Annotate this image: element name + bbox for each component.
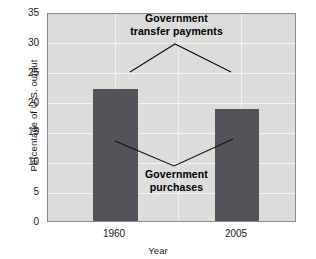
x-axis-title: Year	[0, 245, 316, 256]
annotation-transfer-payments: Government transfer payments	[104, 12, 249, 37]
gridline-25	[48, 73, 295, 74]
bar-chart-figure: Percentage of U.S. output 35 30 25 20 15…	[0, 0, 316, 259]
annotation-transfer-line2: transfer payments	[104, 25, 249, 38]
annotation-government-purchases: Government purchases	[104, 168, 249, 193]
bar-2005	[215, 109, 259, 221]
x-tick-label-2005: 2005	[225, 228, 247, 239]
y-tick-label: 20	[28, 98, 39, 108]
annotation-purchases-line1: Government	[104, 168, 249, 181]
gridline-30	[48, 43, 295, 44]
y-axis-tick-labels: 35 30 25 20 15 10 5 0	[0, 0, 44, 259]
x-tick-label-1960: 1960	[103, 228, 125, 239]
y-tick-label: 35	[28, 8, 39, 18]
y-tick-label: 5	[33, 187, 39, 197]
bar-1960	[93, 89, 138, 221]
x-axis-tick-labels: 1960 2005	[0, 228, 316, 242]
gridline-20	[48, 103, 295, 104]
annotation-purchases-line2: purchases	[104, 181, 249, 194]
y-tick-label: 25	[28, 68, 39, 78]
annotation-transfer-line1: Government	[104, 12, 249, 25]
y-tick-label: 0	[33, 217, 39, 227]
y-tick-label: 10	[28, 157, 39, 167]
y-tick-label: 30	[28, 38, 39, 48]
y-tick-label: 15	[28, 127, 39, 137]
